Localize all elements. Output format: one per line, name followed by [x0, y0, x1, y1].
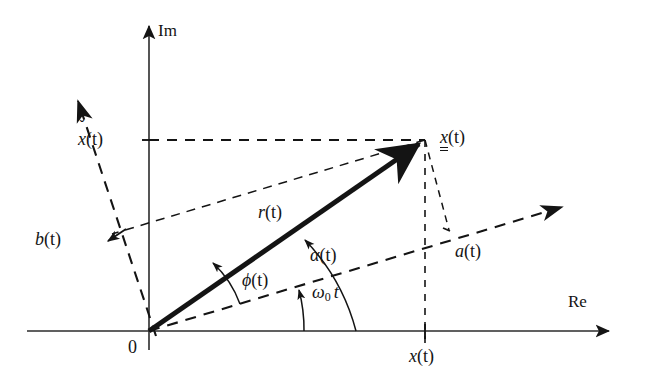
- imaginary-part-symbol: ˇx: [78, 130, 86, 148]
- origin-label: 0: [128, 338, 137, 356]
- a-arg: (t): [464, 241, 481, 261]
- magnitude-symbol: r: [258, 202, 265, 222]
- phasor-magnitude-label: r(t): [258, 203, 282, 221]
- total-angle-label: α(t): [310, 246, 336, 264]
- caron-accent-icon: ˇ: [79, 118, 85, 135]
- b-arg: (t): [44, 229, 61, 249]
- alpha-arg: (t): [319, 245, 336, 265]
- phasor-diagram-figure: Im Re 0 x(t) r(t) ϕ(t) α(t) ω0t x(t) ˇx(…: [0, 0, 646, 383]
- omega-subscript: 0: [325, 290, 331, 304]
- real-part-label: x(t): [409, 347, 434, 365]
- in-phase-component-label: a(t): [455, 242, 481, 260]
- a-projection-line: [425, 140, 449, 230]
- carrier-time-symbol: t: [334, 282, 339, 302]
- a-symbol: a: [455, 241, 464, 261]
- complex-phasor-symbol: x: [440, 128, 448, 147]
- phi-symbol: ϕ: [242, 270, 251, 290]
- instantaneous-phase-label: ϕ(t): [242, 271, 268, 289]
- real-part-symbol: x: [409, 346, 417, 366]
- imaginary-part-label: ˇx(t): [78, 130, 103, 148]
- imaginary-axis-label: Im: [158, 22, 177, 39]
- magnitude-arg: (t): [265, 202, 282, 222]
- phasor-vector: [149, 144, 419, 331]
- carrier-angle-arc: [299, 290, 304, 331]
- quadrature-component-label: b(t): [35, 230, 61, 248]
- real-axis-label: Re: [568, 293, 587, 310]
- phi-arg: (t): [251, 270, 268, 290]
- complex-phasor-label: x(t): [440, 128, 465, 147]
- complex-phasor-arg: (t): [448, 127, 465, 147]
- b-symbol: b: [35, 229, 44, 249]
- phasor-diagram-canvas: [0, 0, 646, 383]
- omega-symbol: ω: [312, 282, 325, 302]
- real-part-arg: (t): [417, 346, 434, 366]
- carrier-angle-label: ω0t: [312, 283, 339, 303]
- imaginary-part-arg: (t): [86, 129, 103, 149]
- a-axis: [149, 207, 562, 331]
